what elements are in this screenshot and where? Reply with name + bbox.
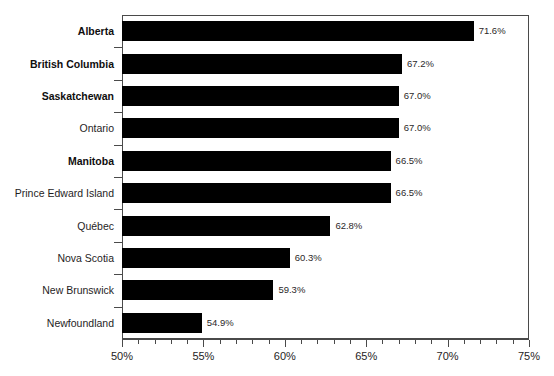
x-axis-minor-tick — [252, 340, 253, 344]
bar-value-label: 66.5% — [391, 183, 423, 203]
x-axis-minor-tick — [350, 340, 351, 344]
x-axis-minor-tick — [496, 340, 497, 344]
x-axis-minor-tick — [480, 340, 481, 344]
y-axis-tick — [114, 209, 122, 210]
category-label-saskatchewan: Saskatchewan — [0, 90, 114, 102]
x-axis-minor-tick — [301, 340, 302, 344]
x-axis-minor-tick — [399, 340, 400, 344]
category-label-manitoba: Manitoba — [0, 155, 114, 167]
bar-ontario — [122, 118, 399, 138]
x-axis-major-tick — [285, 340, 286, 347]
category-label-british-columbia: British Columbia — [0, 58, 114, 70]
x-axis-tick-label: 70% — [424, 350, 472, 363]
bar-value-label: 62.8% — [330, 216, 362, 236]
bar-alberta — [122, 21, 474, 41]
y-axis-tick — [114, 307, 122, 308]
bar-nova-scotia — [122, 248, 290, 268]
bar-value-label: 59.3% — [273, 280, 305, 300]
x-axis-tick-label: 50% — [98, 350, 146, 363]
x-axis-major-tick — [122, 340, 123, 347]
bar-prince-edward-island — [122, 183, 391, 203]
x-axis-tick-label: 75% — [505, 350, 553, 363]
x-axis-minor-tick — [431, 340, 432, 344]
category-label-new-brunswick: New Brunswick — [0, 284, 114, 296]
category-label-alberta: Alberta — [0, 25, 114, 37]
bar-value-label: 71.6% — [474, 21, 506, 41]
x-axis-minor-tick — [334, 340, 335, 344]
bar-new-brunswick — [122, 280, 273, 300]
x-axis-tick-label: 60% — [261, 350, 309, 363]
x-axis-major-tick — [529, 340, 530, 347]
y-axis-tick — [114, 177, 122, 178]
x-axis-minor-tick — [155, 340, 156, 344]
x-axis-minor-tick — [513, 340, 514, 344]
x-axis-minor-tick — [187, 340, 188, 344]
bar-saskatchewan — [122, 86, 399, 106]
bar-manitoba — [122, 151, 391, 171]
y-axis-tick — [114, 112, 122, 113]
y-axis-tick — [114, 274, 122, 275]
category-label-québec: Québec — [0, 220, 114, 232]
bar-value-label: 67.0% — [399, 86, 431, 106]
bars-layer: 71.6%67.2%67.0%67.0%66.5%66.5%62.8%60.3%… — [122, 15, 529, 339]
x-axis-minor-tick — [171, 340, 172, 344]
bar-value-label: 67.0% — [399, 118, 431, 138]
x-axis-minor-tick — [464, 340, 465, 344]
category-label-ontario: Ontario — [0, 122, 114, 134]
category-label-prince-edward-island: Prince Edward Island — [0, 187, 114, 199]
x-axis-minor-tick — [138, 340, 139, 344]
x-axis-minor-tick — [220, 340, 221, 344]
y-axis-tick — [114, 47, 122, 48]
y-axis-tick — [114, 145, 122, 146]
x-axis-line — [122, 339, 529, 340]
x-axis-tick-label: 65% — [342, 350, 390, 363]
y-axis-tick — [114, 242, 122, 243]
category-label-newfoundland: Newfoundland — [0, 317, 114, 329]
category-axis-labels: AlbertaBritish ColumbiaSaskatchewanOntar… — [0, 15, 118, 339]
bar-value-label: 67.2% — [402, 54, 434, 74]
bar-value-label: 66.5% — [391, 151, 423, 171]
bar-british-columbia — [122, 54, 402, 74]
x-axis-minor-tick — [415, 340, 416, 344]
x-axis-major-tick — [203, 340, 204, 347]
x-axis-minor-tick — [236, 340, 237, 344]
x-axis-major-tick — [366, 340, 367, 347]
x-axis-minor-tick — [382, 340, 383, 344]
bar-newfoundland — [122, 313, 202, 333]
x-axis-minor-tick — [317, 340, 318, 344]
x-axis-minor-tick — [269, 340, 270, 344]
bar-value-label: 60.3% — [290, 248, 322, 268]
horizontal-bar-chart: AlbertaBritish ColumbiaSaskatchewanOntar… — [0, 0, 554, 376]
y-axis-tick — [114, 80, 122, 81]
x-axis-major-tick — [448, 340, 449, 347]
bar-québec — [122, 216, 330, 236]
x-axis-tick-label: 55% — [179, 350, 227, 363]
category-label-nova-scotia: Nova Scotia — [0, 252, 114, 264]
bar-value-label: 54.9% — [202, 313, 234, 333]
